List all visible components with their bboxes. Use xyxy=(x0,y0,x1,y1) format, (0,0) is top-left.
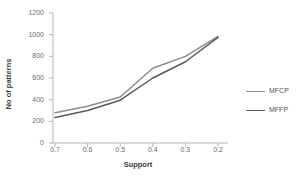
legend-label: MFCP xyxy=(269,86,289,95)
x-tick-label: 0.2 xyxy=(205,146,231,154)
y-tick-label: 200 xyxy=(14,117,44,125)
series-group xyxy=(55,36,218,117)
legend-label: MFFP xyxy=(269,105,288,114)
y-tick-label: 400 xyxy=(14,96,44,104)
legend-line-swatch xyxy=(246,110,265,111)
y-tick-label: 1000 xyxy=(14,31,44,39)
y-tick-label: 0 xyxy=(14,139,44,147)
y-tick-label: 600 xyxy=(14,74,44,82)
x-tick-label: 0.3 xyxy=(172,146,198,154)
x-tick-label: 0.5 xyxy=(107,146,133,154)
x-tick-label: 0.7 xyxy=(42,146,68,154)
y-tick-label: 1200 xyxy=(14,9,44,17)
series-line-mffp xyxy=(55,37,218,117)
line-chart: No of patterns 020040060080010001200 0.7… xyxy=(0,0,303,178)
x-tick-label: 0.6 xyxy=(75,146,101,154)
y-tick-label: 800 xyxy=(14,52,44,60)
x-axis-title: Support xyxy=(88,160,188,169)
series-line-mfcp xyxy=(55,36,218,112)
y-tick-marks xyxy=(49,13,53,143)
legend: MFCPMFFP xyxy=(246,84,303,122)
x-tick-label: 0.4 xyxy=(140,146,166,154)
legend-item[interactable]: MFFP xyxy=(246,103,303,122)
legend-line-swatch xyxy=(246,91,265,92)
legend-item[interactable]: MFCP xyxy=(246,84,303,103)
